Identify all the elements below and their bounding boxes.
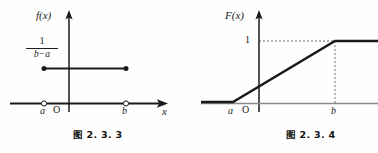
pdf-x-axis-label: x xyxy=(162,106,167,117)
cdf-y-tick-label-one: 1 xyxy=(245,35,250,45)
pdf-origin-label: O xyxy=(53,105,60,115)
figure-pair-page: f(x) x 1 b−a a O b 图 2. 3. 3 xyxy=(0,0,378,153)
cdf-y-axis xyxy=(255,10,262,112)
pdf-height-numerator: 1 xyxy=(26,36,58,47)
pdf-height-denominator: b−a xyxy=(26,50,58,60)
figure-caption-233: 图 2. 3. 3 xyxy=(0,127,189,141)
pdf-y-axis-label: f(x) xyxy=(36,10,51,21)
figure-uniform-pdf: f(x) x 1 b−a a O b 图 2. 3. 3 xyxy=(0,0,189,153)
pdf-tick-label-a: a xyxy=(40,106,45,116)
figure-uniform-cdf: F(x) 1 a O b 图 2. 3. 4 xyxy=(189,0,378,153)
pdf-y-axis xyxy=(65,10,72,112)
cdf-guide-lines xyxy=(259,41,335,103)
cdf-curve xyxy=(201,41,378,102)
cdf-tick-label-b: b xyxy=(331,106,336,116)
pdf-height-value-label: 1 b−a xyxy=(26,36,58,59)
cdf-y-axis-label: F(x) xyxy=(225,10,244,21)
pdf-plot-canvas xyxy=(0,0,189,128)
cdf-tick-label-a: a xyxy=(228,106,233,116)
pdf-tick-label-b: b xyxy=(122,106,127,116)
cdf-plot-canvas xyxy=(189,0,378,128)
cdf-origin-label: O xyxy=(242,105,249,115)
pdf-x-axis xyxy=(10,99,168,107)
pdf-density-segment xyxy=(42,66,129,71)
figure-caption-234: 图 2. 3. 4 xyxy=(189,127,378,141)
